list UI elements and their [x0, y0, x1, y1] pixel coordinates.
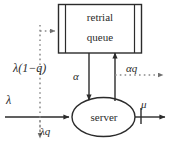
retrial-queue-label-line2: queue — [58, 32, 142, 43]
edge-label-alpha: α — [73, 71, 79, 82]
retrial-queue-label-line1: retrial — [58, 12, 142, 23]
edge-label-lambda: λ — [6, 94, 11, 106]
retrial-queue-diagram: retrial queue server λ(1−q) λ λq α αq μ — [0, 0, 169, 150]
edge-label-mu: μ — [141, 99, 147, 110]
edge-label-lambda-q: λq — [40, 126, 50, 137]
edge-label-lambda-1-minus-q: λ(1−q) — [13, 62, 46, 74]
edge-label-alpha-q: αq — [126, 63, 137, 74]
server-label: server — [74, 112, 134, 123]
